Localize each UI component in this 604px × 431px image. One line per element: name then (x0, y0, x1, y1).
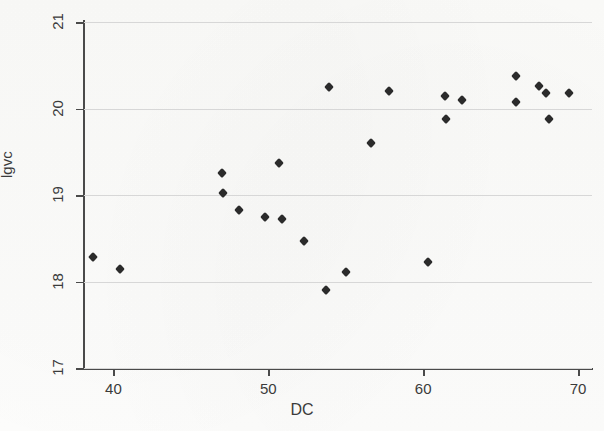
data-point (115, 264, 125, 274)
y-tick-label-21: 21 (49, 7, 66, 37)
x-tick-40 (113, 369, 115, 376)
gridline-y-20 (84, 109, 592, 110)
x-tick-label-40: 40 (93, 380, 133, 397)
data-point (277, 214, 287, 224)
x-tick-60 (423, 369, 425, 376)
data-point (366, 138, 376, 148)
data-point (299, 236, 309, 246)
data-point (544, 114, 554, 124)
data-point (564, 88, 574, 98)
data-point (511, 97, 521, 107)
y-tick-17 (76, 368, 83, 370)
x-tick-70 (578, 369, 580, 376)
x-tick-label-60: 60 (403, 380, 443, 397)
data-point (218, 188, 228, 198)
y-tick-label-18: 18 (49, 266, 66, 296)
data-point (217, 168, 227, 178)
y-tick-21 (76, 22, 83, 24)
data-point (440, 91, 450, 101)
x-axis-title: DC (0, 401, 604, 419)
gridline-y-19 (84, 195, 592, 196)
gridline-y-17 (84, 368, 592, 369)
gridline-y-21 (84, 22, 592, 23)
y-tick-label-20: 20 (49, 93, 66, 123)
data-point (441, 114, 451, 124)
data-point (457, 95, 467, 105)
data-point (274, 158, 284, 168)
data-point (234, 205, 244, 215)
y-axis-title: lgvc (0, 151, 15, 178)
y-tick-label-19: 19 (49, 180, 66, 210)
y-tick-20 (76, 109, 83, 111)
x-tick-50 (268, 369, 270, 376)
y-tick-19 (76, 195, 83, 197)
data-point (541, 88, 551, 98)
plot-area (84, 22, 592, 368)
data-point (260, 212, 270, 222)
data-point (88, 252, 98, 262)
x-tick-label-50: 50 (248, 380, 288, 397)
y-tick-label-17: 17 (49, 353, 66, 383)
gridline-y-18 (84, 282, 592, 283)
data-point (511, 71, 521, 81)
scatter-plot-figure: lgvc 1718192021 40506070 DC (0, 0, 604, 431)
data-point (324, 82, 334, 92)
data-point (423, 258, 433, 268)
x-tick-label-70: 70 (558, 380, 598, 397)
data-point (321, 285, 331, 295)
y-tick-18 (76, 282, 83, 284)
data-point (384, 86, 394, 96)
data-point (341, 267, 351, 277)
